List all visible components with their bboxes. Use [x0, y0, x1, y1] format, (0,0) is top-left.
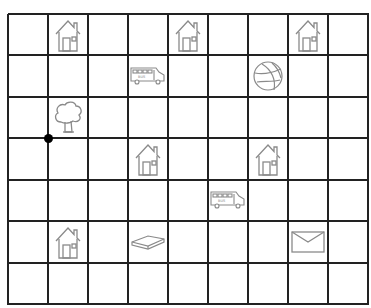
house-icon: [288, 14, 328, 55]
svg-text:BUS: BUS: [218, 199, 226, 203]
map-grid: BUS BUS: [8, 14, 368, 304]
book-icon: [128, 221, 168, 262]
envelope-icon: [288, 221, 328, 262]
grid-line-vertical: [367, 14, 369, 305]
bus-icon: BUS: [128, 55, 168, 96]
grid-line-horizontal: [8, 262, 369, 264]
house-icon: [48, 14, 88, 55]
grid-line-vertical: [207, 14, 209, 305]
house-icon: [48, 221, 88, 262]
position-marker-dot: [44, 134, 53, 143]
tree-icon: [48, 97, 88, 138]
basketball-icon: [248, 55, 288, 96]
grid-line-horizontal: [8, 303, 369, 305]
svg-text:BUS: BUS: [138, 75, 146, 79]
house-icon: [248, 138, 288, 179]
grid-line-vertical: [7, 14, 9, 305]
bus-icon: BUS: [208, 180, 248, 221]
house-icon: [128, 138, 168, 179]
grid-line-horizontal: [8, 179, 369, 181]
house-icon: [168, 14, 208, 55]
